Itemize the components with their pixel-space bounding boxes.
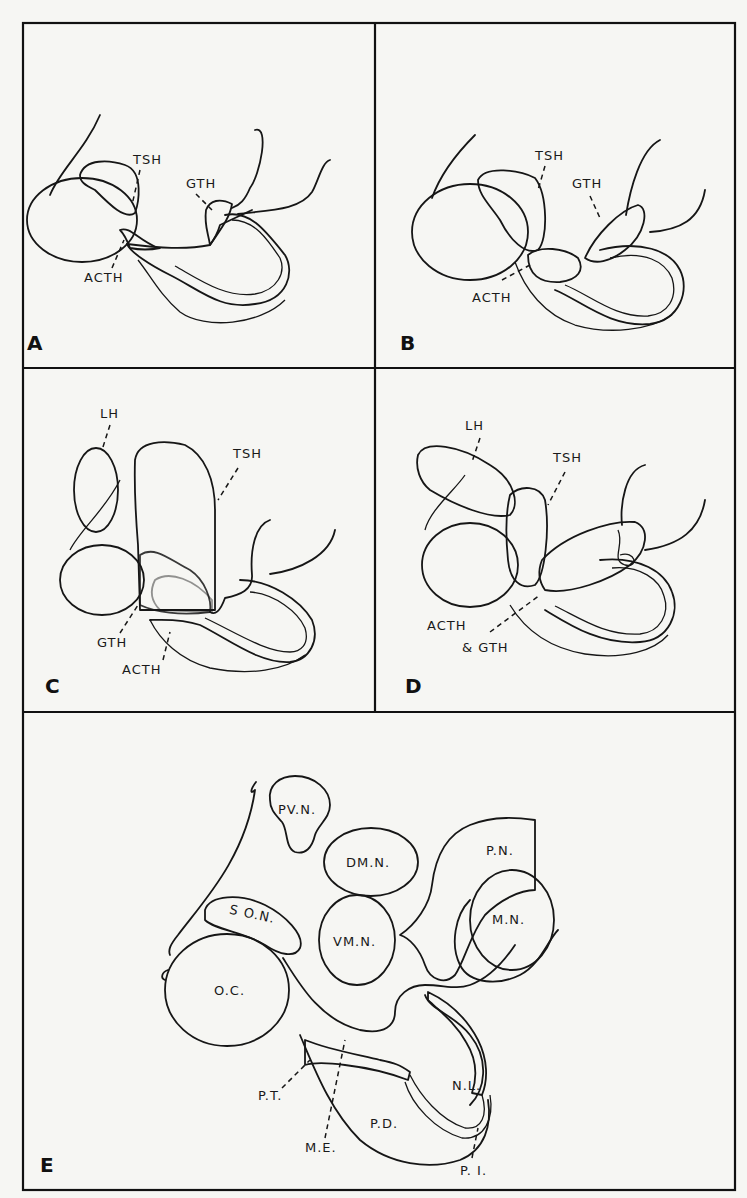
label-dmn: DM.N.	[346, 855, 390, 870]
label-me: M.E.	[305, 1140, 337, 1155]
label-gth: & GTH	[462, 640, 509, 655]
label-tsh: TSH	[132, 152, 162, 167]
label-tsh: TSH	[232, 446, 262, 461]
label-lh: LH	[100, 406, 119, 421]
label-pd: P.D.	[370, 1116, 398, 1131]
panel-letter-a: A	[27, 331, 43, 355]
label-pi: P. I.	[460, 1163, 487, 1178]
label-mn: M.N.	[492, 912, 525, 927]
label-oc: O.C.	[214, 983, 245, 998]
label-gth: GTH	[186, 176, 216, 191]
panel-letter-e: E	[40, 1153, 54, 1177]
panel-c: LH TSH GTH ACTH C	[45, 406, 335, 698]
panel-letter-c: C	[45, 674, 60, 698]
label-tsh: TSH	[552, 450, 582, 465]
panel-letter-d: D	[405, 674, 422, 698]
label-gth: GTH	[572, 176, 602, 191]
label-pt: P.T.	[258, 1088, 282, 1103]
label-vmn: VM.N.	[333, 934, 376, 949]
label-acth: ACTH	[84, 270, 123, 285]
label-pn: P.N.	[486, 843, 514, 858]
nucleus-pn	[400, 818, 535, 980]
label-nl: N.L.	[452, 1078, 481, 1093]
label-acth: ACTH	[472, 290, 511, 305]
label-lh: LH	[465, 418, 484, 433]
panel-b: TSH GTH ACTH B	[400, 135, 705, 355]
panel-a: TSH GTH ACTH A	[27, 115, 330, 355]
pituitary-figure: TSH GTH ACTH A TSH GTH ACTH B	[0, 0, 747, 1198]
label-pvn: PV.N.	[278, 802, 316, 817]
label-gth: GTH	[97, 635, 127, 650]
label-acth: ACTH	[122, 662, 161, 677]
panel-letter-b: B	[400, 331, 415, 355]
panel-d: LH TSH ACTH & GTH D	[405, 418, 705, 698]
label-tsh: TSH	[534, 148, 564, 163]
label-acth: ACTH	[427, 618, 466, 633]
label-son: S O.N.	[228, 902, 276, 926]
panel-e: PV.N. DM.N. P.N. M.N. S O.N. VM.N. O.C. …	[40, 776, 558, 1178]
